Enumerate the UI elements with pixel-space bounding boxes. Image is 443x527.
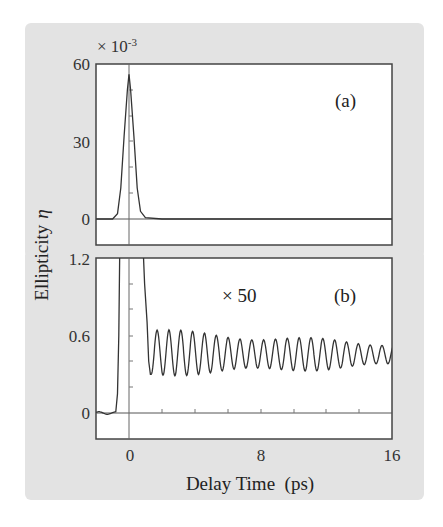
panel-a-ytick-30: 30: [73, 133, 90, 152]
y-axis-label: Ellipticityη: [31, 209, 52, 300]
panel-a-scale-note: × 10-3: [97, 36, 138, 56]
x-axis-label: Delay Time (ps): [186, 473, 314, 495]
panel-b-ytick-1.2: 1.2: [69, 250, 90, 269]
xtick-8: 8: [257, 446, 266, 465]
panel-a-ytick-0: 0: [82, 210, 91, 229]
panel-b-multiplier: × 50: [222, 285, 256, 306]
xtick-0: 0: [126, 446, 135, 465]
xtick-16: 16: [384, 446, 401, 465]
panel-b-ytick-0: 0: [82, 404, 91, 423]
panel-a-ytick-60: 60: [73, 55, 90, 74]
chart-canvas: 60 30 0 × 10-3 (a) 1.2 0.6 0 × 50 (b) 0 …: [0, 0, 443, 527]
panel-b-ytick-0.6: 0.6: [69, 327, 90, 346]
panel-b-label: (b): [334, 285, 356, 307]
panel-a-label: (a): [335, 90, 356, 112]
